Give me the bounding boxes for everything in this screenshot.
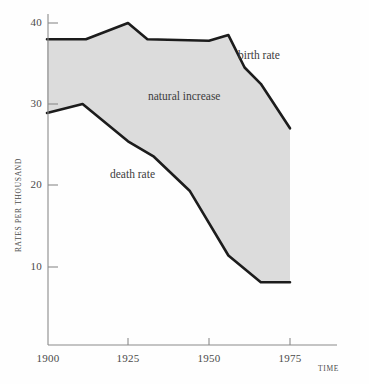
chart-container: 40 30 20 10 1900 1925 1950 1975 birth ra… xyxy=(0,0,369,384)
y-axis-title-wrap: RATES PER THOUSAND xyxy=(7,155,25,255)
y-tick-label-30: 30 xyxy=(18,97,42,109)
x-tick-label-1925: 1925 xyxy=(108,352,148,364)
x-tick-label-1950: 1950 xyxy=(189,352,229,364)
annotation-natural-increase: natural increase xyxy=(148,90,220,102)
annotation-birth-rate: birth rate xyxy=(238,49,280,61)
x-axis-title: TIME xyxy=(318,364,339,373)
y-tick-label-40: 40 xyxy=(18,16,42,28)
y-tick-label-10: 10 xyxy=(18,260,42,272)
x-tick-label-1975: 1975 xyxy=(270,352,310,364)
y-axis-title: RATES PER THOUSAND xyxy=(14,158,23,252)
chart-canvas xyxy=(0,0,369,384)
x-tick-label-1900: 1900 xyxy=(28,352,68,364)
annotation-death-rate: death rate xyxy=(110,168,155,180)
area-natural-increase xyxy=(47,23,290,282)
